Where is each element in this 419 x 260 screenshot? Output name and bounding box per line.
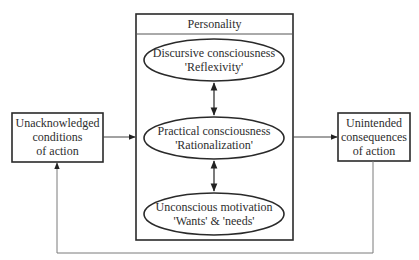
left-box-label: Unacknowledged conditions of action	[12, 116, 103, 158]
ellipse-unconscious-label: Unconscious motivation 'Wants' & 'needs'	[144, 200, 284, 228]
discursive-line1: Discursive consciousness	[144, 46, 284, 60]
unconscious-line1: Unconscious motivation	[144, 200, 284, 214]
unconscious-line2: 'Wants' & 'needs'	[144, 214, 284, 228]
ellipse-discursive-label: Discursive consciousness 'Reflexivity'	[144, 46, 284, 74]
practical-line2: 'Rationalization'	[144, 138, 284, 152]
right-box-label: Unintended consequences of action	[336, 116, 412, 158]
right-box-line1: Unintended	[336, 116, 412, 130]
personality-title: Personality	[136, 17, 293, 31]
left-box-line1: Unacknowledged	[12, 116, 103, 130]
practical-line1: Practical consciousness	[144, 124, 284, 138]
discursive-line2: 'Reflexivity'	[144, 60, 284, 74]
ellipse-practical-label: Practical consciousness 'Rationalization…	[144, 124, 284, 152]
left-box-line3: of action	[12, 144, 103, 158]
right-box-line3: of action	[336, 144, 412, 158]
personality-title-text: Personality	[136, 17, 293, 31]
left-box-line2: conditions	[12, 130, 103, 144]
right-box-line2: consequences	[336, 130, 412, 144]
